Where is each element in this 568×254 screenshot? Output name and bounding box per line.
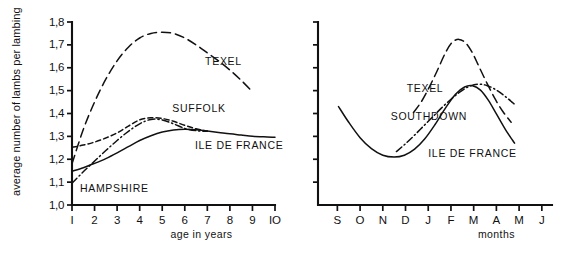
left-x-tick-label: 2 — [91, 214, 97, 226]
left-x-tick-label: 6 — [182, 214, 188, 226]
left-series-label-ile-de-france: ILE DE FRANCE — [195, 139, 283, 151]
right-x-tick-label: J — [539, 214, 545, 226]
left-x-tick-label: 5 — [159, 214, 165, 226]
right-x-tick-label: D — [401, 214, 409, 226]
chart-right-panel: SONDJFMAMJ TEXELSOUTHDOWNILE DE FRANCE m… — [290, 0, 568, 254]
right-x-tick-label: N — [379, 214, 387, 226]
right-x-tick-label: M — [469, 214, 479, 226]
left-y-tick-label: 1,8 — [49, 16, 64, 28]
left-y-tick-label: 1,1 — [49, 176, 64, 188]
left-x-tick-labels: I23456789IO — [70, 214, 281, 226]
left-x-tick-label: IO — [269, 214, 281, 226]
left-series-label-texel: TEXEL — [205, 55, 242, 67]
chart-right-svg: SONDJFMAMJ TEXELSOUTHDOWNILE DE FRANCE m… — [290, 0, 568, 254]
right-x-tick-label: S — [334, 214, 342, 226]
left-y-tick-label: 1,2 — [49, 153, 64, 165]
right-series-label-southdown: SOUTHDOWN — [391, 110, 467, 122]
left-x-tick-label: 7 — [204, 214, 210, 226]
left-x-tick-label: 3 — [114, 214, 120, 226]
left-y-tick-label: 1,5 — [49, 84, 64, 96]
right-x-tick-label: F — [447, 214, 454, 226]
left-y-tick-label: 1,0 — [49, 199, 64, 211]
left-y-tick-label: 1,3 — [49, 130, 64, 142]
left-x-axis-title: age in years — [170, 228, 232, 240]
right-series-labels: TEXELSOUTHDOWNILE DE FRANCE — [391, 82, 517, 159]
left-y-tick-label: 1,4 — [49, 107, 65, 119]
left-series-label-hampshire: HAMPSHIRE — [80, 182, 149, 194]
left-curve-suffolk — [72, 118, 207, 148]
chart-left-svg: average number of lambs per lambing 1,01… — [0, 0, 290, 254]
right-x-tick-label: J — [425, 214, 431, 226]
left-y-axis-title: average number of lambs per lambing — [10, 7, 22, 196]
right-x-tick-labels: SONDJFMAMJ — [334, 214, 545, 226]
left-y-tick-labels: 1,01,11,21,31,41,51,61,71,8 — [49, 16, 65, 211]
chart-left-panel: average number of lambs per lambing 1,01… — [0, 0, 290, 254]
left-y-tick-label: 1,6 — [49, 61, 64, 73]
left-x-tick-label: 4 — [136, 214, 143, 226]
right-series-label-texel: TEXEL — [407, 82, 444, 94]
left-series-label-suffolk: SUFFOLK — [172, 102, 225, 114]
left-x-tick-label: I — [70, 214, 73, 226]
right-series-curves — [339, 39, 516, 157]
figure-root: average number of lambs per lambing 1,01… — [0, 0, 568, 254]
right-x-axis-title: months — [478, 228, 515, 240]
left-x-tick-label: 8 — [227, 214, 233, 226]
right-series-label-ile-de-france: ILE DE FRANCE — [428, 147, 516, 159]
right-x-tick-label: O — [356, 214, 365, 226]
left-x-tick-label: 9 — [249, 214, 255, 226]
right-x-tick-label: A — [493, 214, 501, 226]
left-y-tick-label: 1,7 — [49, 38, 64, 50]
right-x-tick-label: M — [514, 214, 524, 226]
